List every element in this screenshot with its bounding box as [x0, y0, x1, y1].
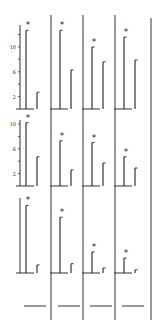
chart-panels: 26102610************	[10, 15, 151, 320]
y-tick-label: 6	[13, 146, 16, 152]
significance-asterisk: *	[26, 195, 31, 205]
significance-asterisk: *	[124, 27, 129, 37]
y-tick-label: 2	[13, 171, 16, 177]
y-tick-label: 10	[10, 44, 16, 50]
significance-asterisk: *	[124, 147, 129, 157]
y-tick-label: 10	[10, 121, 16, 127]
significance-asterisk: *	[60, 20, 65, 30]
significance-asterisk: *	[60, 131, 65, 141]
significance-asterisk: *	[92, 133, 97, 143]
significance-asterisk: *	[26, 20, 31, 30]
significance-asterisk: *	[60, 207, 65, 217]
significance-asterisk: *	[92, 37, 97, 47]
y-tick-label: 2	[13, 94, 16, 100]
significance-asterisk: *	[92, 242, 97, 252]
significance-asterisk: *	[26, 113, 31, 123]
y-tick-label: 6	[13, 69, 16, 75]
multi-panel-bar-chart: 26102610************	[0, 0, 158, 328]
significance-asterisk: *	[124, 248, 129, 258]
